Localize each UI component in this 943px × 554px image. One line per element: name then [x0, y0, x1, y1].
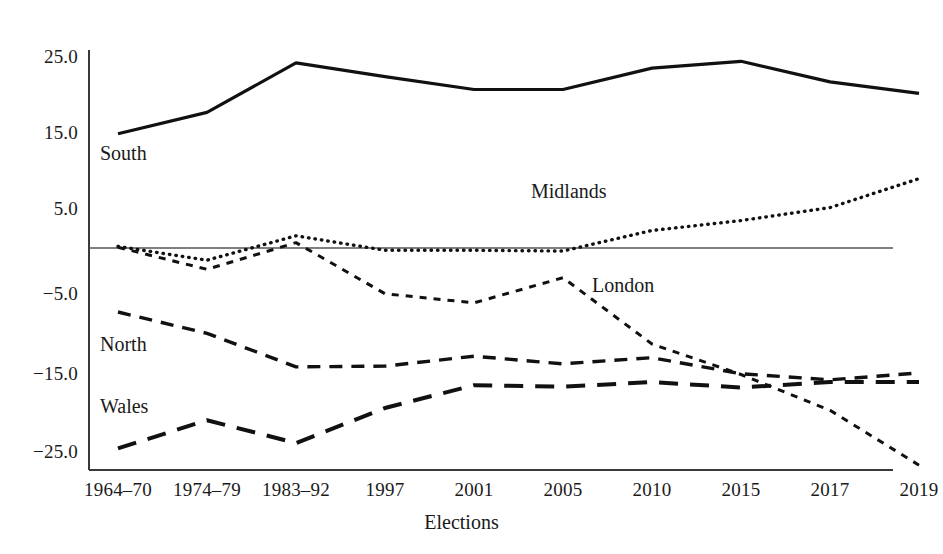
- y-tick-label: −15.0: [8, 363, 78, 385]
- series-label-north: North: [100, 333, 147, 356]
- y-tick-label: −5.0: [8, 283, 78, 305]
- series-line-south: [118, 61, 919, 133]
- y-tick-label: 15.0: [8, 122, 78, 144]
- series-label-wales: Wales: [100, 395, 148, 418]
- x-tick-label: 2019: [864, 479, 943, 501]
- y-tick-label: −25.0: [8, 441, 78, 463]
- series-label-south: South: [100, 142, 147, 165]
- y-tick-label: 5.0: [8, 198, 78, 220]
- x-axis-title: Elections: [0, 511, 923, 534]
- series-label-midlands: Midlands: [531, 180, 607, 203]
- series-line-wales: [118, 382, 919, 448]
- chart-series-group: [118, 61, 919, 465]
- series-label-london: London: [592, 274, 654, 297]
- series-line-north: [118, 312, 919, 380]
- y-tick-label: 25.0: [8, 46, 78, 68]
- series-line-london: [118, 243, 919, 466]
